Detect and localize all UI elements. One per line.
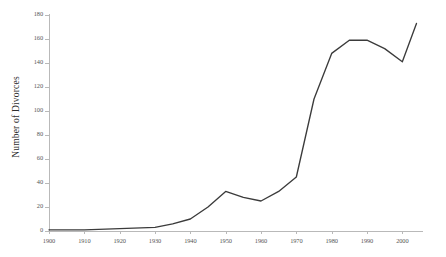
y-tick-label: 40 <box>37 178 43 185</box>
y-tick-label: 160 <box>34 34 43 41</box>
y-tick-label: 180 <box>34 10 43 17</box>
y-tick-label: 60 <box>37 154 43 161</box>
y-tick-mark <box>45 159 49 160</box>
y-tick-140: 140 <box>0 63 49 64</box>
x-tick-mark <box>367 231 368 234</box>
y-tick-60: 60 <box>0 159 49 160</box>
x-tick-label: 1930 <box>139 237 171 244</box>
x-tick-label: 1970 <box>280 237 312 244</box>
series-layer <box>0 0 446 257</box>
x-tick-mark <box>261 231 262 234</box>
y-axis-title: Number of Divorces <box>11 37 21 197</box>
x-tick-label: 1920 <box>104 237 136 244</box>
x-tick-label: 1900 <box>33 237 65 244</box>
x-tick-mark <box>49 231 50 234</box>
x-tick-label: 1910 <box>68 237 100 244</box>
x-tick-mark <box>332 231 333 234</box>
y-tick-mark <box>45 207 49 208</box>
x-tick-mark <box>402 231 403 234</box>
x-tick-label: 1960 <box>245 237 277 244</box>
y-tick-120: 120 <box>0 87 49 88</box>
y-tick-label: 20 <box>37 202 43 209</box>
x-tick-label: 1940 <box>174 237 206 244</box>
x-tick-mark <box>120 231 121 234</box>
y-tick-80: 80 <box>0 135 49 136</box>
x-tick-mark <box>155 231 156 234</box>
x-tick-label: 1980 <box>316 237 348 244</box>
y-tick-40: 40 <box>0 183 49 184</box>
x-tick-mark <box>296 231 297 234</box>
y-tick-mark <box>45 135 49 136</box>
y-tick-160: 160 <box>0 39 49 40</box>
x-tick-label: 2000 <box>386 237 418 244</box>
x-tick-mark <box>190 231 191 234</box>
y-tick-180: 180 <box>0 15 49 16</box>
y-tick-label: 80 <box>37 130 43 137</box>
y-tick-label: 140 <box>34 58 43 65</box>
y-tick-100: 100 <box>0 111 49 112</box>
y-axis-line <box>49 14 50 232</box>
x-tick-label: 1950 <box>210 237 242 244</box>
y-tick-mark <box>45 111 49 112</box>
y-tick-20: 20 <box>0 207 49 208</box>
y-tick-0: 0 <box>0 231 49 232</box>
y-tick-label: 100 <box>34 106 43 113</box>
y-tick-mark <box>45 15 49 16</box>
x-tick-label: 1990 <box>351 237 383 244</box>
y-tick-mark <box>45 39 49 40</box>
y-tick-mark <box>45 63 49 64</box>
divorces-line-chart: Number of Divorces 020406080100120140160… <box>0 0 446 257</box>
y-tick-mark <box>45 183 49 184</box>
x-tick-mark <box>226 231 227 234</box>
y-tick-label: 0 <box>40 226 43 233</box>
y-tick-label: 120 <box>34 82 43 89</box>
x-tick-mark <box>84 231 85 234</box>
divorces-series-line <box>49 23 416 229</box>
y-tick-mark <box>45 87 49 88</box>
